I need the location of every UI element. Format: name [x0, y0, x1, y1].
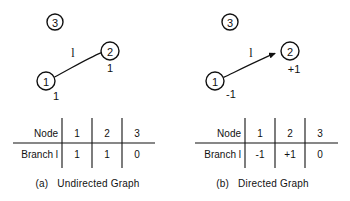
- table-data-row-label: Branch l: [204, 149, 241, 160]
- panel-a-caption-label: Undirected Graph: [57, 178, 139, 189]
- node-2-label: 2: [107, 46, 113, 58]
- panel-directed-graph: 3 2 1 l +1 -1 Node 1 2 3 Branch l: [175, 0, 350, 201]
- table-col-header-1: 1: [74, 128, 80, 139]
- node-1-label: 1: [43, 76, 49, 88]
- node-1-label: 1: [212, 76, 218, 88]
- node-3-label: 3: [227, 17, 233, 29]
- table-data-row-label: Branch l: [21, 149, 58, 160]
- panel-b-caption-tag: (b): [216, 178, 229, 189]
- weight-at-node-1: 1: [53, 90, 59, 102]
- node-3-label: 3: [52, 17, 58, 29]
- table-header-row-label: Node: [34, 128, 58, 139]
- directed-incidence-table: Node 1 2 3 Branch l -1 +1 0: [175, 112, 350, 174]
- table-cell-3: 0: [317, 149, 323, 160]
- branch-label-l: l: [249, 46, 253, 60]
- table-col-header-1: 1: [257, 128, 263, 139]
- undirected-graph-diagram: 3 2 1 l 1 1: [0, 0, 175, 110]
- directed-graph-diagram: 3 2 1 l +1 -1: [175, 0, 350, 110]
- table-cell-3: 0: [134, 149, 140, 160]
- node-2-label: 2: [287, 46, 293, 58]
- table-col-header-2: 2: [287, 128, 293, 139]
- directed-table-grid: Node 1 2 3 Branch l -1 +1 0: [175, 112, 350, 174]
- table-cell-2: +1: [284, 149, 296, 160]
- undirected-incidence-table: Node 1 2 3 Branch l 1 1 0: [0, 112, 175, 174]
- weight-at-node-1: -1: [226, 88, 236, 100]
- undirected-table-grid: Node 1 2 3 Branch l 1 1 0: [0, 112, 175, 174]
- table-col-header-3: 3: [317, 128, 323, 139]
- panel-a-caption-tag: (a): [36, 178, 49, 189]
- weight-at-node-2: +1: [288, 63, 301, 75]
- table-header-row-label: Node: [217, 128, 241, 139]
- panel-b-caption-label: Directed Graph: [238, 178, 309, 189]
- table-cell-1: 1: [74, 149, 80, 160]
- table-cell-1: -1: [256, 149, 265, 160]
- table-cell-2: 1: [104, 149, 110, 160]
- weight-at-node-2: 1: [107, 62, 113, 74]
- branch-l-edge: [55, 53, 102, 77]
- table-col-header-3: 3: [134, 128, 140, 139]
- panel-b-caption: (b)Directed Graph: [175, 178, 350, 189]
- branch-label-l: l: [71, 46, 75, 60]
- panel-undirected-graph: 3 2 1 l 1 1 Node 1 2 3 Branch l: [0, 0, 175, 201]
- table-col-header-2: 2: [104, 128, 110, 139]
- panel-a-caption: (a)Undirected Graph: [0, 178, 175, 189]
